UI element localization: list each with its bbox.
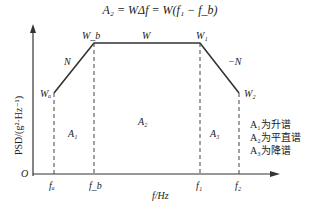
psd-diagram — [0, 0, 320, 206]
x-axis-label: f/Hz — [152, 190, 169, 201]
legend: A₁为升谱 A₂为平直谱 A₃为降谱 — [250, 118, 301, 157]
point-w2: W₂ — [244, 88, 256, 99]
slope-up: N — [64, 56, 71, 67]
legend-item: A₁为升谱 — [250, 118, 301, 131]
slope-down: −N — [228, 56, 241, 67]
region-a3: A₃ — [210, 128, 220, 139]
point-wb: W_b — [82, 30, 100, 41]
x-axis-arrow-icon — [270, 171, 280, 177]
legend-item: A₃为降谱 — [250, 144, 301, 157]
tick-f1: f₁ — [196, 180, 202, 191]
point-w1: W₁ — [196, 30, 208, 41]
psd-curve — [54, 43, 239, 93]
legend-item: A₂为平直谱 — [250, 131, 301, 144]
tick-f2: f₂ — [235, 180, 241, 191]
region-a2: A₂ — [138, 116, 148, 127]
tick-fb: f_b — [89, 180, 102, 191]
point-w: W — [142, 30, 150, 41]
y-axis-arrow-icon — [30, 24, 36, 33]
origin-label: O — [21, 168, 28, 179]
tick-fa: fₐ — [49, 180, 55, 191]
point-wa: Wₐ — [40, 88, 51, 99]
region-a1: A₁ — [68, 128, 78, 139]
y-axis-label: PSD/(g²·Hz⁻¹) — [13, 76, 24, 176]
